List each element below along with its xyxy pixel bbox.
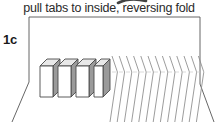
instruction-figure: [0, 0, 218, 122]
tab-2: [58, 59, 78, 97]
diagram-canvas: pull tabs to inside, reversing fold 1c: [0, 0, 218, 122]
tab-3: [76, 59, 96, 97]
curved-arrow-fragment: [118, 0, 146, 3]
tab-4: [94, 59, 110, 97]
accordion-pleat-group: [110, 56, 204, 122]
tab-group: [40, 59, 110, 97]
tab-1: [40, 59, 60, 97]
